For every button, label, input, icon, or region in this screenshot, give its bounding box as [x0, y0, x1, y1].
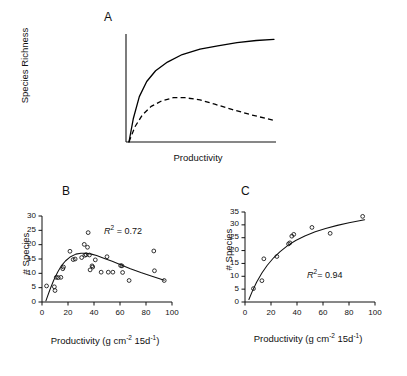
panel-a: A Species Richness Productivity [0, 0, 407, 178]
panel-c-x-tick-60: 60 [313, 308, 333, 317]
panel-b-y-tick-5: 5 [20, 282, 36, 291]
panel-b-y-tick-20: 20 [20, 239, 36, 248]
panel-a-plot-area [118, 28, 278, 148]
panel-b-x-title-end: ) [156, 335, 159, 346]
panel-c-y-tick-35: 35 [223, 207, 239, 216]
panel-c-y-tick-20: 20 [223, 245, 239, 254]
panel-b-r-squared-annotation: R2 = 0.72 [104, 224, 142, 236]
panel-c-y-tick-0: 0 [223, 297, 239, 306]
panel-a-x-axis-title: Productivity [118, 152, 278, 163]
panel-b-x-tick-60: 60 [110, 308, 130, 317]
panel-b-x-title-main: Productivity (g cm [51, 335, 127, 346]
panel-a-y-axis-title: Species Richness [19, 6, 30, 126]
panel-c-y-tick-25: 25 [223, 232, 239, 241]
panel-c: C # Species R2= 0.94 Productivity (g cm-… [203, 182, 407, 376]
panel-c-x-axis-title: Productivity (g cm-2 15d-1) [213, 332, 403, 344]
panel-b-y-tick-10: 10 [20, 268, 36, 277]
species-richness-productivity-figure: A Species Richness Productivity B # Spec… [0, 0, 407, 376]
panel-c-x-tick-0: 0 [235, 308, 255, 317]
panel-c-letter: C [241, 184, 250, 198]
panel-b-letter: B [62, 184, 70, 198]
panel-b-y-tick-0: 0 [20, 297, 36, 306]
panel-c-x-title-main: Productivity (g cm [254, 333, 330, 344]
panel-b-x-tick-80: 80 [136, 308, 156, 317]
panel-c-y-tick-10: 10 [223, 271, 239, 280]
panel-c-x-tick-40: 40 [287, 308, 307, 317]
panel-c-y-tick-15: 15 [223, 258, 239, 267]
panel-c-r-squared-annotation: R2= 0.94 [307, 268, 342, 280]
panel-b-y-tick-15: 15 [20, 254, 36, 263]
panel-c-y-tick-30: 30 [223, 219, 239, 228]
panel-b: B # Species R2 = 0.72 Productivity (g cm… [0, 182, 205, 376]
panel-b-x-title-mid: 15d [132, 335, 151, 346]
panel-b-y-tick-30: 30 [20, 211, 36, 220]
panel-a-letter: A [104, 10, 112, 24]
panel-b-x-tick-40: 40 [84, 308, 104, 317]
panel-c-x-title-mid: 15d [335, 333, 354, 344]
panel-b-x-tick-100: 100 [162, 308, 182, 317]
panel-c-chart [245, 212, 375, 302]
panel-c-plot-area [245, 212, 375, 302]
panel-b-x-axis-title: Productivity (g cm-2 15d-1) [10, 334, 200, 346]
panel-a-chart [118, 28, 278, 148]
panel-b-x-tick-0: 0 [32, 308, 52, 317]
panel-c-x-title-end: ) [359, 333, 362, 344]
panel-b-r2-exponent: 2 [111, 224, 115, 231]
panel-c-x-tick-80: 80 [339, 308, 359, 317]
panel-c-y-tick-5: 5 [223, 284, 239, 293]
panel-b-x-tick-20: 20 [58, 308, 78, 317]
panel-c-x-tick-20: 20 [261, 308, 281, 317]
panel-c-r2-value: = 0.94 [317, 270, 342, 280]
panel-b-r2-value: = 0.72 [117, 226, 142, 236]
panel-b-y-tick-25: 25 [20, 225, 36, 234]
panel-c-x-tick-100: 100 [365, 308, 385, 317]
